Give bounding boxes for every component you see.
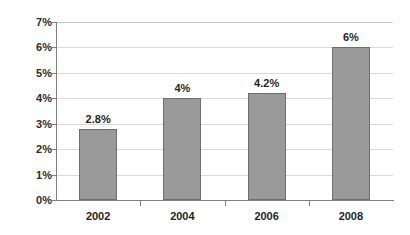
y-axis-tick-label: 7% [6,17,52,28]
plot-area [56,22,393,200]
bar-value-label: 6% [343,32,359,43]
bar-chart: 0%1%2%3%4%5%6%7% 2.8%20024%20044.2%20066… [0,0,410,235]
x-axis-category-label: 2004 [170,210,194,222]
bar [248,93,286,200]
bar-value-label: 4.2% [254,78,279,89]
x-axis-tick-mark [225,201,226,206]
y-axis-line [56,22,57,201]
bar-value-label: 4% [174,83,190,94]
x-axis-category-label: 2002 [86,210,110,222]
x-axis-category-label: 2008 [339,210,363,222]
gridline [56,22,393,23]
bar [332,47,370,200]
y-axis: 0%1%2%3%4%5%6%7% [0,22,52,200]
x-axis-tick-mark [309,201,310,206]
x-axis-category-label: 2006 [254,210,278,222]
y-axis-tick-label: 3% [6,118,52,129]
y-axis-tick-label: 6% [6,42,52,53]
y-axis-tick-label: 4% [6,93,52,104]
y-axis-tick-label: 0% [6,195,52,206]
y-axis-tick-label: 5% [6,67,52,78]
bar-value-label: 2.8% [86,114,111,125]
bar [163,98,201,200]
y-axis-tick-label: 1% [6,169,52,180]
x-axis-tick-mark [140,201,141,206]
bar [79,129,117,200]
y-axis-tick-label: 2% [6,144,52,155]
